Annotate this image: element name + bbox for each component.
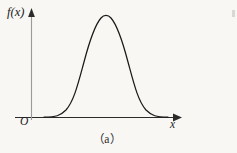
y-axis-arrow-icon <box>28 8 35 17</box>
origin-label: O <box>20 116 28 128</box>
figure-container: f(x) O x （a） <box>0 0 237 153</box>
page-edge-artifact <box>232 10 235 17</box>
y-axis-label: f(x) <box>7 6 24 19</box>
bell-curve-plot <box>0 0 237 153</box>
x-axis-label: x <box>170 119 175 131</box>
bell-curve-path <box>44 15 168 117</box>
figure-caption: （a） <box>0 133 214 146</box>
